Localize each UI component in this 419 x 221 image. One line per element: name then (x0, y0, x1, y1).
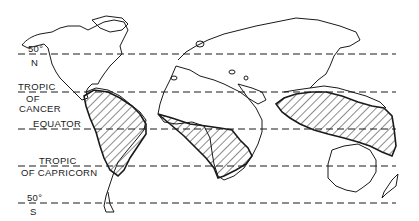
new-zealand-outline (382, 174, 398, 198)
island (171, 76, 177, 80)
lat-50n-label-top: 50° (28, 44, 43, 54)
hatched-regions (84, 90, 396, 178)
island (229, 70, 235, 74)
lat-50s-label-top: 50° (27, 193, 42, 203)
tropic-capricorn-label-bottom: OF CAPRICORN (21, 168, 97, 178)
lat-50s-label-bottom: S (30, 207, 37, 217)
lat-50n-label-bottom: N (31, 58, 38, 68)
africa-hatched-region (158, 114, 252, 178)
island (244, 76, 248, 80)
equator-label: EQUATOR (33, 119, 81, 129)
australia-outline (328, 144, 376, 192)
greenland-outline (92, 16, 128, 32)
tropic-cancer-label-top: TROPIC (18, 82, 56, 92)
south-america-hatched-region (84, 90, 146, 176)
tropic-cancer-label-bottom: CANCER (19, 104, 61, 114)
world-map (0, 0, 419, 221)
tropic-capricorn-label-top: TROPIC (39, 156, 77, 166)
